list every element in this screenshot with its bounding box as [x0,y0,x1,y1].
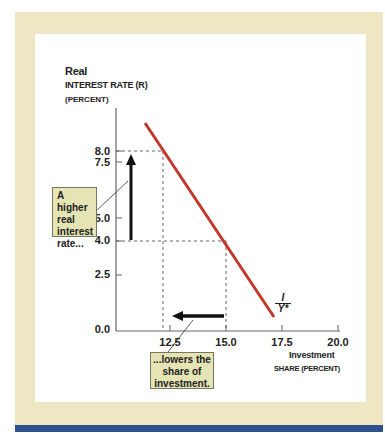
callout-line: rate... [57,238,92,250]
y-tick-label: 7.5 [80,156,110,168]
callout-line: interest [57,226,92,238]
callout-left-leader [96,181,128,211]
callout-lowers-investment: ...lowers the share of investment. [150,352,214,389]
y-tick-marks [116,151,122,275]
callout-line: investment. [153,378,211,390]
x-tick-marks [170,325,338,331]
x-axis-label-line2: SHARE (PERCENT) [274,364,340,373]
left-arrow-icon [172,311,224,321]
curve-label: I Y* [275,293,291,314]
x-tick-label: 17.5 [265,336,299,348]
callout-line: real [57,214,92,226]
callout-higher-rate: A higher real interest rate... [52,187,97,237]
x-tick-label: 12.5 [153,336,187,348]
x-tick-label: 15.0 [209,336,243,348]
y-axis-label-line1: Real [65,65,87,77]
curve-label-denominator: Y* [275,304,291,314]
callout-line: ...lowers the [153,354,211,366]
callout-line: share of [153,366,211,378]
y-tick-label: 2.5 [80,268,110,280]
callout-line: A higher [57,190,92,214]
x-tick-label: 20.0 [321,336,355,348]
up-arrow-icon [126,154,136,240]
y-tick-label: 0.0 [80,323,110,335]
y-axis-label-line2: INTEREST RATE (R) [65,80,147,90]
investment-curve [145,123,274,317]
x-axis-label-line1: Investment [289,350,335,360]
y-axis-label-line3: (PERCENT) [65,95,109,104]
